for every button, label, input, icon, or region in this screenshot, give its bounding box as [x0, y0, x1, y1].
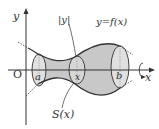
label-origin: O: [13, 68, 22, 81]
label-a: a: [35, 71, 41, 82]
label-x-position: x: [75, 72, 80, 82]
y-axis-arrow-icon: [24, 8, 29, 14]
solid-of-revolution-diagram: y x O |y| y=f(x) a x b S(x): [0, 0, 159, 129]
leader-section: [62, 83, 74, 108]
label-x-axis: x: [145, 71, 152, 84]
label-b: b: [116, 70, 122, 81]
label-curve: y=f(x): [95, 16, 127, 27]
leader-abs-y: [69, 24, 76, 57]
label-abs-y: |y|: [58, 14, 70, 26]
label-y-axis: y: [12, 10, 20, 23]
label-cross-section: S(x): [52, 108, 74, 121]
